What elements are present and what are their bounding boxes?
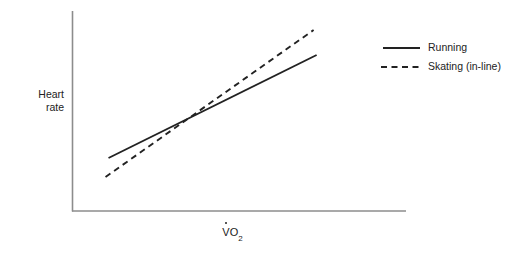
chart-legend: Running Skating (in-line) [380,38,530,76]
y-axis-label-line-2: rate [12,101,64,114]
y-axis-label: Heart rate [12,88,64,113]
x-axis-label-subscript: 2 [238,234,242,243]
x-axis-label-symbol-wrap: V [222,226,229,239]
legend-item-running: Running [380,38,530,57]
chart-figure: Heart rate VO2 Running Skating (in-line) [0,0,531,265]
legend-item-skating: Skating (in-line) [380,57,530,76]
legend-label-running: Running [428,41,467,53]
series-line-running [109,55,317,158]
x-axis-label: VO2 [180,226,285,244]
legend-label-skating: Skating (in-line) [428,60,501,72]
overdot-icon [225,222,227,224]
legend-swatch-dashed-icon [380,57,422,76]
x-axis-label-element: O [230,226,239,238]
cropped-caption-text [0,258,531,265]
legend-swatch-solid-icon [380,38,422,57]
series-line-skating [106,30,314,177]
y-axis-label-line-1: Heart [12,88,64,101]
x-axis-label-symbol: V [222,226,229,238]
